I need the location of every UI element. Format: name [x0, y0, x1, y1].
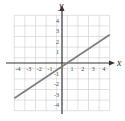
- svg-text:3: 3: [56, 28, 59, 34]
- svg-text:-4: -4: [54, 102, 59, 108]
- svg-text:-2: -2: [54, 81, 59, 87]
- svg-text:-2: -2: [37, 66, 42, 72]
- svg-text:-3: -3: [26, 66, 31, 72]
- svg-text:-4: -4: [16, 66, 21, 72]
- x-axis-label: x: [116, 57, 122, 68]
- svg-text:2: 2: [81, 66, 84, 72]
- svg-text:2: 2: [56, 39, 59, 45]
- svg-text:1: 1: [71, 66, 74, 72]
- svg-text:1: 1: [56, 49, 59, 55]
- axes: [6, 5, 115, 114]
- svg-text:4: 4: [56, 18, 59, 24]
- y-axis-label: y: [58, 0, 64, 11]
- svg-text:4: 4: [102, 66, 105, 72]
- svg-text:3: 3: [92, 66, 95, 72]
- x-arrow-icon: [109, 61, 115, 66]
- svg-text:-3: -3: [54, 92, 59, 98]
- coordinate-plane: -4-3-2-112344321-1-2-3-4 x y: [0, 0, 125, 121]
- svg-text:-1: -1: [47, 66, 52, 72]
